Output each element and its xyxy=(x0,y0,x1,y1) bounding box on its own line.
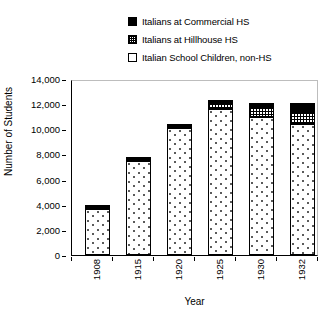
bar-1930 xyxy=(249,103,274,255)
bar-segment-non-hs xyxy=(208,109,233,255)
y-tick-label: 12,000 xyxy=(31,100,60,110)
y-axis-labels: 14,000 12,000 10,000 8,000 6,000 4,000 2… xyxy=(0,80,66,256)
y-tick-label: 10,000 xyxy=(31,125,60,135)
y-tick-mark xyxy=(62,105,66,106)
bar-segment-non-hs xyxy=(167,128,192,255)
y-tick-label: 2,000 xyxy=(36,226,60,236)
y-tick-mark xyxy=(62,155,66,156)
bar-segment-commercial-hs xyxy=(126,157,151,159)
bar-segment-commercial-hs xyxy=(290,103,315,112)
y-tick-label: 6,000 xyxy=(36,176,60,186)
y-tick-mark xyxy=(62,130,66,131)
x-tick-label-1915: 1915 xyxy=(132,259,144,280)
x-tick-mark xyxy=(112,257,113,261)
y-tick-label: 14,000 xyxy=(31,75,60,85)
bar-segment-non-hs xyxy=(290,124,315,255)
x-tick-label-1932: 1932 xyxy=(296,259,308,280)
chart-container: Italians at Commercial HS Italians at Hi… xyxy=(0,0,330,317)
y-tick-mark xyxy=(62,231,66,232)
legend-swatch-white-dotted-icon xyxy=(128,53,137,62)
bar-segment-hillhouse-hs xyxy=(167,126,192,128)
legend-item-hillhouse-hs: Italians at Hillhouse HS xyxy=(128,34,323,45)
bar-segment-hillhouse-hs xyxy=(290,112,315,125)
bar-segment-hillhouse-hs xyxy=(208,103,233,109)
x-tick-mark xyxy=(235,257,236,261)
legend-label-hillhouse-hs: Italians at Hillhouse HS xyxy=(142,34,238,45)
bar-1932 xyxy=(290,103,315,255)
x-tick-label-1920: 1920 xyxy=(173,259,185,280)
y-tick-label: 8,000 xyxy=(36,150,60,160)
y-tick-mark xyxy=(62,181,66,182)
bar-segment-non-hs xyxy=(126,161,151,255)
bar-1915 xyxy=(126,157,151,255)
bar-segment-commercial-hs xyxy=(167,124,192,126)
bar-1908 xyxy=(85,206,110,255)
legend-swatch-grid-hatch-icon xyxy=(128,35,137,44)
y-tick-label: 4,000 xyxy=(36,201,60,211)
x-tick-mark xyxy=(194,257,195,261)
x-axis-labels: 1908 1915 1920 1925 1930 1932 xyxy=(71,257,318,297)
legend-item-commercial-hs: Italians at Commercial HS xyxy=(128,16,323,27)
bar-segment-hillhouse-hs xyxy=(126,159,151,161)
bar-segment-commercial-hs xyxy=(249,103,274,107)
bar-1925 xyxy=(208,100,233,255)
y-tick-mark xyxy=(62,206,66,207)
bar-segment-non-hs xyxy=(85,209,110,256)
x-tick-label-1930: 1930 xyxy=(255,259,267,280)
legend-label-commercial-hs: Italians at Commercial HS xyxy=(142,16,249,27)
x-tick-mark xyxy=(276,257,277,261)
x-axis-title: Year xyxy=(71,296,318,307)
bar-segment-hillhouse-hs xyxy=(249,107,274,116)
x-tick-mark xyxy=(317,257,318,261)
x-tick-label-1925: 1925 xyxy=(214,259,226,280)
y-tick-mark xyxy=(62,80,66,81)
bar-segment-commercial-hs xyxy=(208,100,233,103)
y-tick-mark xyxy=(62,256,66,257)
bar-segment-non-hs xyxy=(249,117,274,255)
plot-area xyxy=(71,80,318,256)
bar-1920 xyxy=(167,124,192,255)
chart-legend: Italians at Commercial HS Italians at Hi… xyxy=(128,16,323,63)
y-tick-label: 0 xyxy=(55,251,60,261)
x-tick-mark xyxy=(153,257,154,261)
bar-segment-commercial-hs xyxy=(85,205,110,207)
legend-swatch-solid-black-icon xyxy=(128,17,137,26)
x-tick-label-1908: 1908 xyxy=(91,259,103,280)
bars-layer xyxy=(72,81,317,255)
legend-label-non-hs: Italian School Children, non-HS xyxy=(142,52,271,63)
x-tick-mark xyxy=(71,257,72,261)
legend-item-non-hs: Italian School Children, non-HS xyxy=(128,52,323,63)
